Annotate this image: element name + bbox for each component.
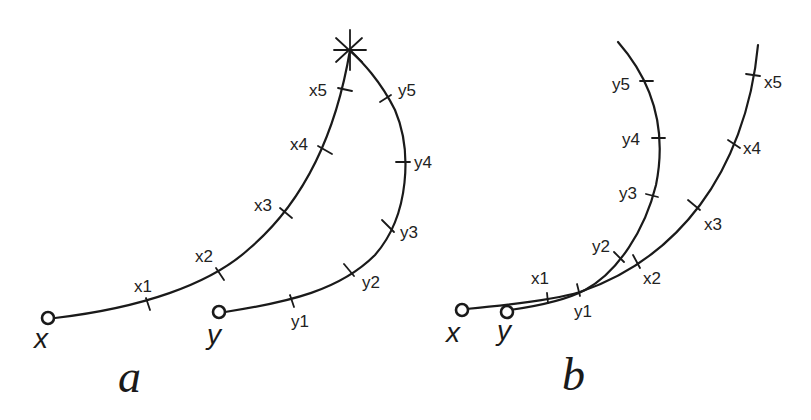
- start-b-y-label: y: [495, 315, 513, 346]
- start-b-x-circle: [456, 304, 468, 316]
- label-b-x2: x2: [643, 269, 661, 288]
- label-a-x3: x3: [254, 196, 272, 215]
- start-a-y-circle: [213, 306, 225, 318]
- panel-a-x-curve: [55, 50, 350, 318]
- label-b-x1: x1: [531, 269, 549, 288]
- panel-a-label: a: [118, 351, 141, 402]
- label-a-x4: x4: [290, 135, 308, 154]
- start-b-x-label: x: [444, 317, 461, 348]
- label-b-x5: x5: [764, 73, 782, 92]
- tick-b-x1: [547, 293, 548, 303]
- start-a-y-label: y: [205, 319, 223, 350]
- label-a-y2: y2: [362, 273, 380, 292]
- label-b-y4: y4: [622, 130, 640, 149]
- label-b-y3: y3: [619, 184, 637, 203]
- label-b-y5: y5: [612, 75, 630, 94]
- tick-a-x5: [338, 88, 352, 91]
- label-a-y3: y3: [400, 223, 418, 242]
- panel-a: x1 x2 x3 x4 x5 y1 y2 y3 y4 y5 x y a: [32, 30, 432, 402]
- tick-b-x5: [746, 74, 760, 76]
- diagram-root: x1 x2 x3 x4 x5 y1 y2 y3 y4 y5 x y a: [0, 0, 811, 420]
- tick-a-y1: [290, 295, 294, 307]
- label-b-x3: x3: [704, 215, 722, 234]
- label-b-y1: y1: [574, 302, 592, 321]
- label-a-y5: y5: [398, 81, 416, 100]
- label-b-y2: y2: [592, 237, 610, 256]
- label-a-y1: y1: [291, 312, 309, 331]
- label-a-x2: x2: [195, 247, 213, 266]
- start-a-x-label: x: [32, 323, 49, 354]
- label-b-x4: x4: [743, 139, 761, 158]
- label-a-x1: x1: [134, 277, 152, 296]
- star-icon: [334, 30, 366, 70]
- label-a-y4: y4: [414, 153, 432, 172]
- label-a-x5: x5: [309, 81, 327, 100]
- panel-b-label: b: [562, 349, 585, 400]
- diagram-canvas: x1 x2 x3 x4 x5 y1 y2 y3 y4 y5 x y a: [0, 0, 811, 420]
- panel-b: x1 x2 x3 x4 x5 y1 y2 y3 y4 y5 x y b: [444, 42, 782, 400]
- tick-b-x3: [688, 200, 700, 210]
